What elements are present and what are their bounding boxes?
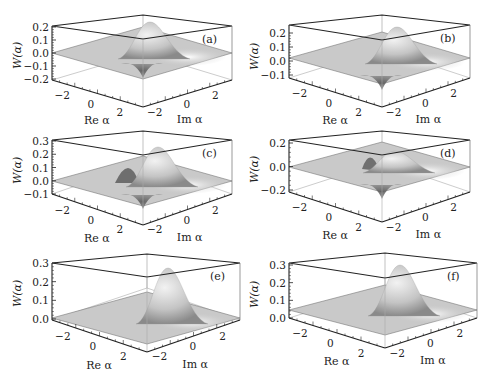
im-axis-label: Im α xyxy=(182,359,208,370)
z-tick-label: −0.1 xyxy=(256,70,286,81)
panel-e: 0.30.20.10.0W(α)−202−202Re αIm α(e) xyxy=(0,248,245,372)
z-axis-label: W(α) xyxy=(249,155,260,182)
im-tick-label: 0 xyxy=(422,98,429,109)
re-axis-label: Re α xyxy=(324,356,350,367)
panel-d: 0.20.0−0.2W(α)−202−202Re αIm α(d) xyxy=(245,124,490,248)
im-tick-label: 0 xyxy=(190,341,197,352)
panel-f: 0.30.20.10.0W(α)−202−202Re αIm α(f) xyxy=(245,248,490,372)
z-axis-label: W(α) xyxy=(249,43,260,70)
panel-b: 0.20.10.0−0.1W(α)−202−202Re αIm α(b) xyxy=(245,0,490,124)
re-tick-label: 0 xyxy=(90,341,97,352)
panel-c: 0.30.20.10.0−0.1W(α)−202−202Re αIm α(c) xyxy=(0,124,245,248)
im-tick-label: 2 xyxy=(450,88,457,99)
z-tick-label: −0.2 xyxy=(256,185,286,196)
im-tick-label: 2 xyxy=(212,205,219,216)
im-axis-label: Im α xyxy=(415,229,441,240)
z-tick-label: 0.2 xyxy=(256,28,286,39)
re-axis-label: Re α xyxy=(322,230,348,241)
im-axis-label: Im α xyxy=(177,232,203,243)
im-tick-label: 0 xyxy=(184,215,191,226)
z-tick-label: −0.2 xyxy=(19,74,49,85)
z-tick-label: 0.0 xyxy=(19,314,49,325)
panel-tag: (b) xyxy=(440,33,456,44)
re-tick-label: 0 xyxy=(326,212,333,223)
z-axis-label: W(α) xyxy=(12,42,23,69)
re-tick-label: −2 xyxy=(55,331,70,342)
z-tick-label: 0.3 xyxy=(19,258,49,269)
im-tick-label: 2 xyxy=(212,90,219,101)
im-tick-label: −2 xyxy=(147,107,162,118)
panel-tag: (e) xyxy=(210,271,225,282)
z-tick-label: 0.2 xyxy=(256,138,286,149)
panel-tag: (f) xyxy=(447,271,460,282)
im-axis-label: Im α xyxy=(420,355,446,366)
panel-tag: (a) xyxy=(202,34,217,45)
re-tick-label: −2 xyxy=(292,328,307,339)
im-tick-label: −2 xyxy=(386,222,401,233)
re-tick-label: −2 xyxy=(54,205,69,216)
re-tick-label: 0 xyxy=(327,338,334,349)
re-tick-label: 2 xyxy=(355,222,362,233)
re-axis-label: Re α xyxy=(84,233,110,244)
im-tick-label: 0 xyxy=(427,338,434,349)
re-tick-label: 2 xyxy=(120,351,127,362)
panel-a: 0.20.10.0−0.1−0.2W(α)−202−202Re αIm α(a) xyxy=(0,0,245,124)
z-axis-label: W(α) xyxy=(12,156,23,183)
im-tick-label: −2 xyxy=(152,351,167,362)
im-tick-label: −2 xyxy=(390,348,405,359)
z-axis-label: W(α) xyxy=(12,280,23,307)
z-tick-label: 0.3 xyxy=(19,136,49,147)
re-tick-label: −2 xyxy=(54,90,69,101)
panel-tag: (c) xyxy=(202,148,217,159)
z-tick-label: 0.2 xyxy=(19,22,49,33)
im-tick-label: 2 xyxy=(450,202,457,213)
re-tick-label: 0 xyxy=(88,99,95,110)
re-axis-label: Re α xyxy=(86,360,112,371)
im-tick-label: 0 xyxy=(422,212,429,223)
re-tick-label: 0 xyxy=(88,215,95,226)
re-tick-label: 2 xyxy=(355,107,362,118)
re-tick-label: 2 xyxy=(117,107,124,118)
z-tick-label: −0.1 xyxy=(19,189,49,200)
re-tick-label: −2 xyxy=(292,88,307,99)
z-tick-label: 0.3 xyxy=(256,260,286,271)
z-tick-label: 0.0 xyxy=(256,313,286,324)
re-tick-label: 0 xyxy=(326,98,333,109)
re-tick-label: 2 xyxy=(358,348,365,359)
z-axis-label: W(α) xyxy=(249,280,260,307)
panel-tag: (d) xyxy=(440,148,456,159)
im-tick-label: −2 xyxy=(147,224,162,235)
im-tick-label: 0 xyxy=(184,99,191,110)
im-tick-label: 2 xyxy=(219,331,226,342)
re-tick-label: 2 xyxy=(117,224,124,235)
im-tick-label: −2 xyxy=(386,107,401,118)
im-tick-label: 2 xyxy=(456,328,463,339)
re-tick-label: −2 xyxy=(292,202,307,213)
